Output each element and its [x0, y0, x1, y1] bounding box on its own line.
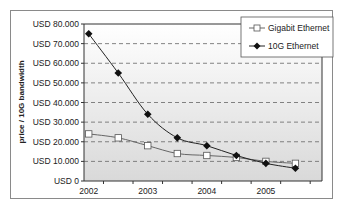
open-square-icon [254, 25, 260, 31]
y-tick-label: USD 0 [54, 176, 79, 186]
x-tick-label: 2004 [197, 186, 216, 196]
y-tick-label: USD 30.000 [33, 117, 80, 127]
y-tick-label: USD 60.000 [33, 58, 80, 68]
y-tick-label: USD 80.000 [33, 19, 80, 29]
y-tick-label: USD 70.000 [33, 39, 80, 49]
legend: Gigabit Ethernet 10G Ethernet [241, 17, 333, 57]
open-square-marker-icon [86, 131, 92, 137]
open-square-marker-icon [204, 152, 210, 158]
y-tick-label: USD 40.000 [33, 98, 80, 108]
x-tick-label: 2005 [256, 186, 275, 196]
x-tick-label: 2002 [79, 186, 98, 196]
y-axis-ticks: USD 0USD 10.000USD 20.000USD 30.000USD 4… [33, 19, 84, 186]
line-chart: USD 0USD 10.000USD 20.000USD 30.000USD 4… [0, 0, 344, 212]
legend-label-10g: 10G Ethernet [268, 41, 319, 51]
open-square-marker-icon [115, 135, 121, 141]
y-tick-label: USD 50.000 [33, 78, 80, 88]
open-square-marker-icon [174, 150, 180, 156]
y-axis-label: price / 10G bandwidth [17, 60, 26, 143]
open-square-marker-icon [145, 142, 151, 148]
y-tick-label: USD 10.000 [33, 156, 80, 166]
x-tick-label: 2003 [138, 186, 157, 196]
y-tick-label: USD 20.000 [33, 137, 80, 147]
x-axis-ticks: 2002200320042005 [79, 181, 310, 196]
legend-label-gigabit: Gigabit Ethernet [268, 23, 330, 33]
